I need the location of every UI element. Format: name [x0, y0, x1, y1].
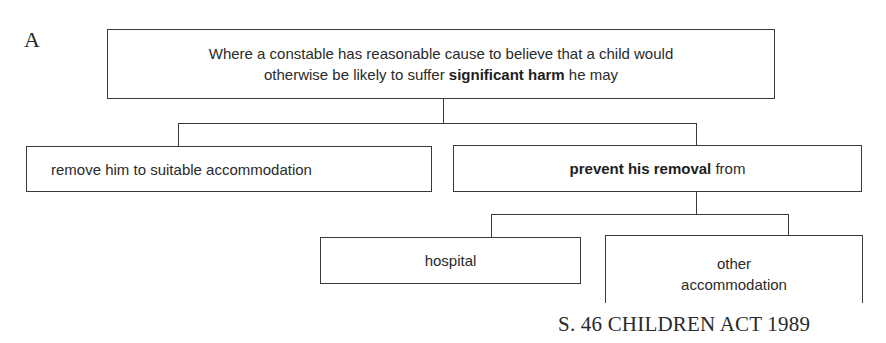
- connector-prevent-down: [696, 191, 697, 215]
- other-node-line1: other: [717, 253, 751, 274]
- hospital-node: hospital: [320, 237, 581, 284]
- connector-prevent-branch: [491, 214, 789, 215]
- other-node-line2: accommodation: [681, 274, 787, 295]
- figure-caption: S. 46 CHILDREN ACT 1989: [558, 312, 810, 337]
- prevent-node-suffix: from: [711, 160, 745, 177]
- significant-harm-emphasis: significant harm: [449, 66, 565, 83]
- connector-root-down: [443, 98, 444, 124]
- connector-to-prevent: [696, 123, 697, 146]
- remove-node-label: remove him to suitable accommodation: [51, 159, 312, 180]
- connector-to-remove: [178, 123, 179, 147]
- prevent-removal-emphasis: prevent his removal: [570, 160, 712, 177]
- root-node-line2-suffix: he may: [565, 66, 618, 83]
- connector-root-branch: [178, 123, 697, 124]
- root-node-line2: otherwise be likely to suffer significan…: [264, 64, 618, 85]
- panel-label: A: [24, 27, 40, 53]
- prevent-node-text: prevent his removal from: [570, 158, 746, 179]
- remove-node: remove him to suitable accommodation: [26, 146, 432, 192]
- connector-to-hospital: [491, 214, 492, 238]
- root-node-line2-prefix: otherwise be likely to suffer: [264, 66, 449, 83]
- connector-to-other: [788, 214, 789, 236]
- root-node-line1: Where a constable has reasonable cause t…: [209, 43, 673, 64]
- prevent-node: prevent his removal from: [453, 145, 862, 192]
- other-accommodation-node: other accommodation: [605, 235, 863, 303]
- root-node: Where a constable has reasonable cause t…: [107, 29, 775, 99]
- hospital-node-label: hospital: [425, 250, 477, 271]
